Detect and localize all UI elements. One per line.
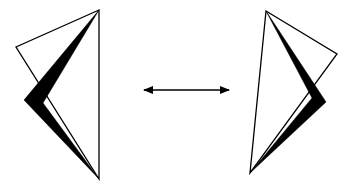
reflection-diagram [0, 0, 357, 194]
left-shape-filled [24, 10, 99, 179]
right-shape-outline [250, 11, 337, 173]
right-shape-filled [250, 11, 326, 173]
left-shape [16, 10, 99, 179]
diagram-svg [0, 0, 357, 194]
right-shape [250, 11, 337, 173]
